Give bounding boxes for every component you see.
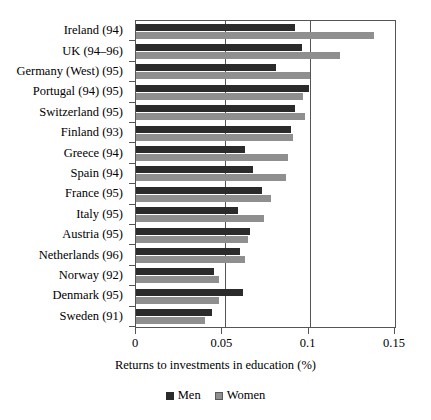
x-axis-title: Returns to investments in education (%) <box>0 358 431 373</box>
y-axis-label: France (95) <box>65 186 123 200</box>
x-axis-tick-label: 0.1 <box>278 336 338 350</box>
legend-swatch-women-icon <box>215 392 223 400</box>
bar-men <box>136 207 238 214</box>
y-axis-tick <box>129 204 135 205</box>
x-axis-tick-label: 0.15 <box>364 336 424 350</box>
y-axis-tick <box>129 183 135 184</box>
bar-women <box>136 32 374 39</box>
bar-chart: Ireland (94)UK (94–96)Germany (West) (95… <box>0 0 431 420</box>
bar-group <box>136 266 395 286</box>
bar-group <box>136 307 395 327</box>
x-axis-tick <box>135 328 136 334</box>
y-axis-tick <box>129 40 135 41</box>
y-axis-label: Finland (93) <box>61 125 123 139</box>
bar-women <box>136 297 219 304</box>
bar-group <box>136 123 395 143</box>
legend-swatch-men-icon <box>166 392 174 400</box>
legend-item-men: Men <box>166 388 201 403</box>
bar-group <box>136 286 395 306</box>
bar-men <box>136 24 295 31</box>
y-axis-label: Portugal (94) (95) <box>33 84 123 98</box>
bar-men <box>136 146 245 153</box>
bar-women <box>136 276 219 283</box>
x-axis-tick-label: 0 <box>105 336 165 350</box>
bar-women <box>136 215 264 222</box>
bar-group <box>136 205 395 225</box>
bar-women <box>136 113 305 120</box>
y-axis-tick <box>129 244 135 245</box>
bar-men <box>136 309 212 316</box>
plot-area <box>135 20 396 328</box>
bar-rows <box>136 21 395 327</box>
y-axis-tick <box>129 61 135 62</box>
bar-women <box>136 317 205 324</box>
bar-men <box>136 166 253 173</box>
bar-women <box>136 72 310 79</box>
bar-group <box>136 143 395 163</box>
chart-legend: Men Women <box>0 388 431 403</box>
bar-men <box>136 44 302 51</box>
bar-men <box>136 268 214 275</box>
bar-women <box>136 134 293 141</box>
x-axis-tick <box>394 328 395 334</box>
bar-women <box>136 256 245 263</box>
y-axis-tick <box>129 142 135 143</box>
bar-men <box>136 228 250 235</box>
bar-men <box>136 105 295 112</box>
y-axis-label: Italy (95) <box>76 207 123 221</box>
y-axis-label: Ireland (94) <box>64 23 123 37</box>
legend-item-women: Women <box>215 388 266 403</box>
x-axis-tick <box>221 328 222 334</box>
y-axis-tick <box>129 285 135 286</box>
y-axis-tick <box>129 122 135 123</box>
y-axis-tick <box>129 265 135 266</box>
y-axis-labels: Ireland (94)UK (94–96)Germany (West) (95… <box>0 20 131 328</box>
legend-label-men: Men <box>178 388 201 403</box>
bar-women <box>136 52 340 59</box>
bar-men <box>136 126 291 133</box>
bar-group <box>136 41 395 61</box>
legend-label-women: Women <box>227 388 266 403</box>
y-axis-tick <box>129 81 135 82</box>
y-axis-label: Netherlands (96) <box>39 248 123 262</box>
bar-men <box>136 289 243 296</box>
bar-men <box>136 85 309 92</box>
y-axis-label: Germany (West) (95) <box>16 64 123 78</box>
bar-women <box>136 93 303 100</box>
bar-group <box>136 164 395 184</box>
bar-women <box>136 195 271 202</box>
y-axis-label: Sweden (91) <box>59 309 123 323</box>
y-axis-tick <box>129 326 135 327</box>
bar-women <box>136 174 286 181</box>
y-axis-tick <box>129 224 135 225</box>
y-axis-label: Spain (94) <box>71 166 123 180</box>
bar-group <box>136 82 395 102</box>
bar-group <box>136 21 395 41</box>
y-axis-label: UK (94–96) <box>62 44 123 58</box>
y-axis-label: Switzerland (95) <box>39 105 123 119</box>
y-axis-tick <box>129 163 135 164</box>
bar-men <box>136 64 276 71</box>
bar-group <box>136 184 395 204</box>
x-axis-tick-label: 0.05 <box>191 336 251 350</box>
bar-group <box>136 103 395 123</box>
bar-men <box>136 248 240 255</box>
y-axis-label: Norway (92) <box>59 268 123 282</box>
y-axis-tick <box>129 306 135 307</box>
bar-men <box>136 187 262 194</box>
y-axis-label: Denmark (95) <box>53 288 123 302</box>
y-axis-tick <box>129 102 135 103</box>
bar-women <box>136 236 248 243</box>
bar-women <box>136 154 288 161</box>
bar-group <box>136 62 395 82</box>
x-axis-tick <box>308 328 309 334</box>
bar-group <box>136 225 395 245</box>
y-axis-label: Austria (95) <box>62 227 123 241</box>
y-axis-label: Greece (94) <box>64 146 123 160</box>
bar-group <box>136 245 395 265</box>
